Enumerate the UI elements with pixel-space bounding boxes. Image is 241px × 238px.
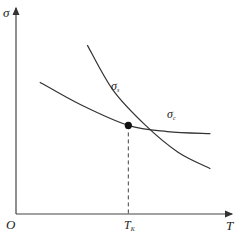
label-sigma-s: σs [111,79,120,93]
figure: σ T O σs σc TK [0,0,241,238]
diagram-svg: σ T O σs σc TK [0,0,241,238]
curve-sigma-s [87,45,210,169]
x-axis-label: T [226,218,234,233]
y-axis-label: σ [3,5,10,20]
intersection-point [125,122,132,129]
origin-label: O [6,217,16,232]
label-sigma-c: σc [167,107,176,121]
tick-label-tk: TK [124,218,136,232]
